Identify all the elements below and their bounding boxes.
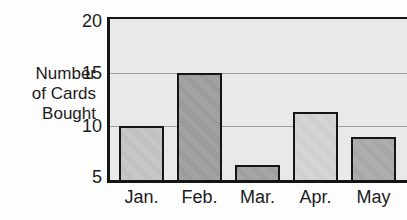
bar-may xyxy=(351,137,396,180)
x-tick-label-mar: Mar. xyxy=(228,187,288,208)
y-axis-title-line-2: of Cards xyxy=(0,84,96,104)
bar-chart-figure: Number of Cards Bought 2015105 Jan.Feb.M… xyxy=(0,0,407,220)
x-tick-label-apr: Apr. xyxy=(286,187,346,208)
y-tick-label-20: 20 xyxy=(62,11,102,32)
x-tick-label-feb: Feb. xyxy=(170,187,230,208)
bar-apr xyxy=(293,112,338,180)
y-tick-label-15: 15 xyxy=(62,62,102,83)
y-tick-label-5: 5 xyxy=(62,167,102,188)
bar-feb xyxy=(177,73,222,180)
plot-area xyxy=(107,17,407,183)
bar-mar xyxy=(235,165,280,180)
x-tick-label-jan: Jan. xyxy=(112,187,172,208)
plot-inner xyxy=(110,19,407,180)
gridline-15 xyxy=(110,73,407,74)
x-tick-label-may: May xyxy=(344,187,404,208)
y-tick-label-10: 10 xyxy=(62,116,102,137)
bar-jan xyxy=(119,126,164,180)
